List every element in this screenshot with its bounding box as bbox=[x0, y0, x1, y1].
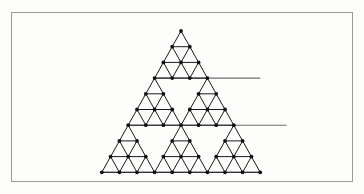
lattice-node bbox=[179, 29, 183, 33]
lattice-node bbox=[258, 170, 262, 174]
lattice-node bbox=[135, 170, 139, 174]
lattice-node bbox=[170, 170, 174, 174]
lattice-node bbox=[109, 155, 113, 159]
lattice-node bbox=[188, 139, 192, 143]
lattice-node bbox=[188, 170, 192, 174]
lattice-node bbox=[118, 170, 122, 174]
lattice-node bbox=[162, 123, 166, 127]
lattice-node bbox=[126, 155, 130, 159]
lattice-node bbox=[144, 123, 148, 127]
lattice-node bbox=[241, 139, 245, 143]
lattice-node bbox=[223, 139, 227, 143]
lattice-node bbox=[118, 139, 122, 143]
lattice-node bbox=[188, 45, 192, 49]
lattice-node bbox=[214, 155, 218, 159]
lattice-node bbox=[250, 155, 254, 159]
lattice-node bbox=[206, 170, 210, 174]
lattice-node bbox=[206, 76, 210, 80]
lattice-node bbox=[206, 108, 210, 112]
lattice-node bbox=[170, 108, 174, 112]
lattice-node bbox=[126, 123, 130, 127]
lattice-node bbox=[170, 76, 174, 80]
lattice-node bbox=[223, 108, 227, 112]
lattice-node bbox=[179, 155, 183, 159]
lattice-node bbox=[241, 170, 245, 174]
lattice-node bbox=[100, 170, 104, 174]
lattice-node bbox=[162, 92, 166, 96]
lattice-node bbox=[188, 108, 192, 112]
lattice-node bbox=[214, 92, 218, 96]
lattice-node bbox=[197, 92, 201, 96]
lattice-node bbox=[232, 123, 236, 127]
lattice-node bbox=[153, 170, 157, 174]
lattice-node bbox=[170, 45, 174, 49]
lattice-node bbox=[144, 92, 148, 96]
lattice-node bbox=[214, 123, 218, 127]
figure-root bbox=[0, 0, 364, 194]
lattice-node bbox=[153, 108, 157, 112]
lattice-node bbox=[232, 155, 236, 159]
lattice-node bbox=[162, 61, 166, 65]
lattice-node bbox=[135, 139, 139, 143]
lattice-node bbox=[144, 155, 148, 159]
lattice-node bbox=[197, 123, 201, 127]
lattice-node bbox=[179, 123, 183, 127]
lattice-node bbox=[188, 76, 192, 80]
lattice-node bbox=[162, 155, 166, 159]
lattice-node bbox=[170, 139, 174, 143]
lattice-node bbox=[223, 170, 227, 174]
lattice-node bbox=[153, 76, 157, 80]
lattice-node bbox=[197, 155, 201, 159]
lattice-node bbox=[197, 61, 201, 65]
lattice-node bbox=[135, 108, 139, 112]
lattice-node bbox=[179, 61, 183, 65]
sierpinski-triangle-svg bbox=[0, 0, 364, 194]
